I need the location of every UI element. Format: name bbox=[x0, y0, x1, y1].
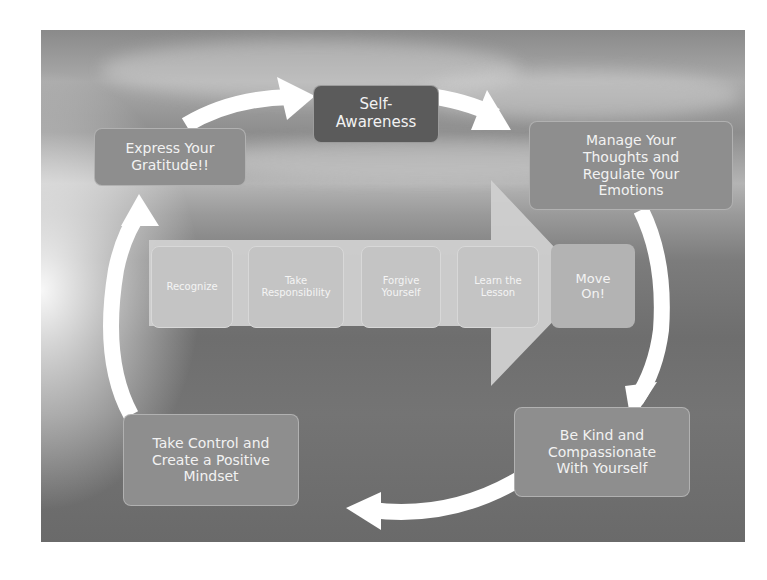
node-label: Manage Your bbox=[583, 132, 679, 149]
node-self-awareness: Self- Awareness bbox=[313, 85, 439, 143]
arrow-gratitude-to-self bbox=[186, 97, 291, 125]
step-label: Lesson bbox=[474, 287, 522, 299]
node-be-kind: Be Kind and Compassionate With Yourself bbox=[514, 407, 690, 497]
arrowhead bbox=[346, 492, 381, 530]
node-label: Be Kind and bbox=[548, 427, 656, 444]
step-label: Forgive bbox=[381, 275, 420, 287]
node-label: Gratitude!! bbox=[125, 157, 214, 174]
step-recognize: Recognize bbox=[151, 246, 233, 328]
step-label: Take bbox=[261, 275, 330, 287]
node-label: Create a Positive bbox=[152, 452, 270, 469]
step-forgive-yourself: Forgive Yourself bbox=[361, 246, 441, 328]
step-label: Responsibility bbox=[261, 287, 330, 299]
node-label: Regulate Your bbox=[583, 166, 679, 183]
node-label: Self- bbox=[336, 96, 417, 114]
arrowhead bbox=[277, 77, 315, 120]
node-label: With Yourself bbox=[548, 460, 656, 477]
step-move-on: Move On! bbox=[551, 244, 635, 328]
node-express-gratitude: Express Your Gratitude!! bbox=[94, 128, 246, 186]
diagram-slide: Self- Awareness Manage Your Thoughts and… bbox=[41, 30, 745, 542]
node-label: Mindset bbox=[152, 468, 270, 485]
step-label: On! bbox=[576, 286, 611, 301]
node-label: Awareness bbox=[336, 114, 417, 132]
node-label: Express Your bbox=[125, 140, 214, 157]
arrow-control-to-gratitude bbox=[111, 210, 141, 415]
step-label: Yourself bbox=[381, 287, 420, 299]
node-label: Thoughts and bbox=[583, 149, 679, 166]
step-label: Learn the bbox=[474, 275, 522, 287]
step-label: Recognize bbox=[166, 281, 217, 293]
arrow-manage-to-kind bbox=[636, 210, 662, 400]
step-label: Move bbox=[576, 271, 611, 286]
arrow-kind-to-control bbox=[371, 478, 521, 512]
node-label: Compassionate bbox=[548, 444, 656, 461]
node-take-control: Take Control and Create a Positive Minds… bbox=[123, 414, 299, 506]
node-label: Take Control and bbox=[152, 435, 270, 452]
step-learn-lesson: Learn the Lesson bbox=[457, 246, 539, 328]
step-take-responsibility: Take Responsibility bbox=[248, 246, 344, 328]
node-label: Emotions bbox=[583, 182, 679, 199]
node-manage-thoughts: Manage Your Thoughts and Regulate Your E… bbox=[529, 121, 733, 210]
